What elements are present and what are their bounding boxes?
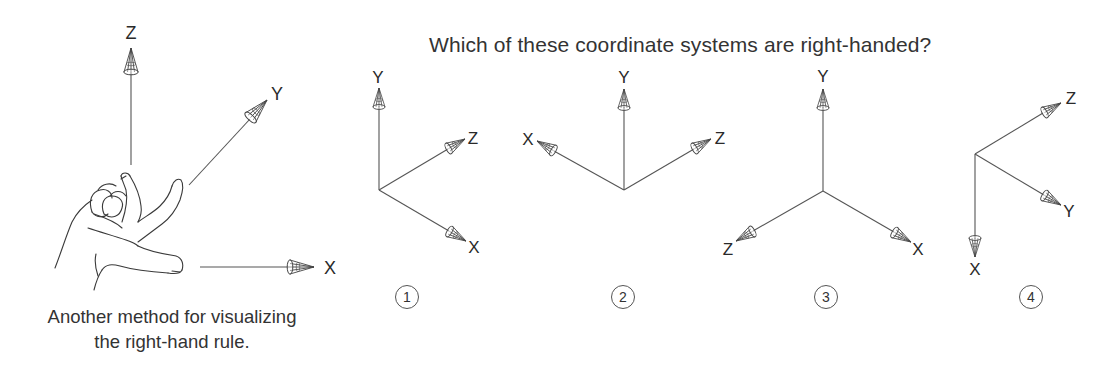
sys4-y-arrowhead-icon <box>1039 189 1064 210</box>
question-title: Which of these coordinate systems are ri… <box>429 33 931 57</box>
hand-axis-label-z: Z <box>126 24 137 42</box>
hand-sketch-icon <box>55 173 183 290</box>
sys1-x-arrowhead-icon <box>444 225 469 246</box>
sys2-z-arrowhead-icon <box>689 134 714 155</box>
sys2-axis-label-x: X <box>522 131 533 148</box>
coordinate-system-3 <box>733 89 914 247</box>
hand-axis-label-y: Y <box>271 85 283 103</box>
sys1-axis-label-z: Z <box>468 130 478 147</box>
hand-axis-label-x: X <box>324 259 336 277</box>
sys3-x-arrowhead-icon <box>889 226 914 247</box>
sys1-axis-label-x: X <box>468 239 479 256</box>
sys4-axis-label-z: Z <box>1066 90 1076 107</box>
coordinate-system-1 <box>373 88 469 246</box>
sys3-axis-label-z: Z <box>723 241 733 258</box>
sys4-x-arrowhead-icon <box>969 236 981 257</box>
caption-line-2: the right-hand rule. <box>22 329 322 354</box>
coordinate-system-2 <box>534 89 714 190</box>
sys1-y-arrowhead-icon <box>373 88 385 109</box>
system-number-badge-3: 3 <box>814 285 838 309</box>
coordinate-system-4 <box>969 98 1064 257</box>
caption-line-1: Another method for visualizing <box>22 304 322 329</box>
sys3-z-arrowhead-icon <box>733 225 758 246</box>
hand-y-arrowhead-icon <box>243 95 272 124</box>
system-number-badge-2: 2 <box>611 285 635 309</box>
sys2-axis-label-y: Y <box>618 69 629 86</box>
diagram-stage: Which of these coordinate systems are ri… <box>0 0 1106 365</box>
sys3-axis-label-y: Y <box>817 68 828 85</box>
system-number-badge-4: 4 <box>1019 285 1043 309</box>
sys1-z-arrowhead-icon <box>443 134 468 155</box>
sys4-axis-label-x: X <box>969 261 980 278</box>
sys4-z-arrowhead-icon <box>1039 98 1064 119</box>
sys4-axis-label-y: Y <box>1063 203 1074 220</box>
system-number-badge-1: 1 <box>395 285 419 309</box>
sys3-y-arrowhead-icon <box>817 89 829 110</box>
hand-x-arrowhead-icon <box>287 260 314 274</box>
sys2-x-arrowhead-icon <box>534 136 559 157</box>
hand-z-arrowhead-icon <box>124 48 138 75</box>
sys3-axis-label-x: X <box>912 241 923 258</box>
hand-caption: Another method for visualizing the right… <box>22 304 322 354</box>
sys1-axis-label-y: Y <box>372 69 383 86</box>
hand-y-axis-line <box>189 119 250 185</box>
sys2-y-arrowhead-icon <box>618 89 630 110</box>
sys2-axis-label-z: Z <box>715 130 725 147</box>
